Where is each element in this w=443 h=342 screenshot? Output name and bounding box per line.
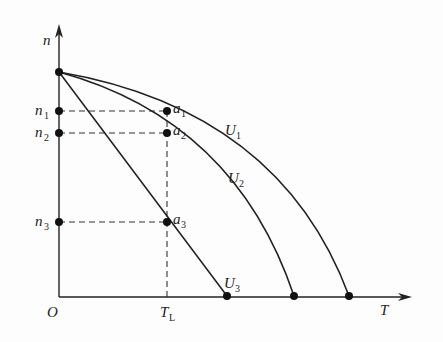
svg-text:1: 1	[236, 130, 241, 141]
n1-point	[55, 107, 63, 115]
n2-point	[55, 129, 63, 137]
svg-text:3: 3	[44, 221, 49, 232]
u2-stall-point	[290, 292, 298, 300]
a1-label: a 1	[173, 100, 186, 119]
svg-text:2: 2	[239, 178, 244, 189]
a2-label: a 2	[173, 122, 186, 141]
u1-label: U 1	[225, 122, 241, 141]
n2-label: n 2	[35, 124, 49, 143]
n-axis-label: n	[43, 32, 51, 48]
svg-text:a: a	[173, 100, 181, 116]
a1-point	[163, 107, 171, 115]
svg-text:2: 2	[181, 130, 186, 141]
n3-point	[55, 218, 63, 226]
speed-torque-diagram: n T O n 1 n 2 n 3 T L a 1 a 2 a 3 U 1 U …	[0, 0, 443, 342]
svg-text:n: n	[35, 124, 43, 140]
u1-stall-point	[345, 292, 353, 300]
svg-text:L: L	[169, 312, 175, 323]
no-load-point	[55, 68, 63, 76]
svg-text:3: 3	[181, 219, 186, 230]
n3-label: n 3	[35, 213, 49, 232]
svg-text:a: a	[173, 122, 181, 138]
svg-text:a: a	[173, 211, 181, 227]
svg-text:n: n	[35, 102, 43, 118]
origin-label: O	[47, 304, 58, 320]
n1-label: n 1	[35, 102, 49, 121]
svg-text:1: 1	[44, 110, 49, 121]
a2-point	[163, 129, 171, 137]
svg-text:2: 2	[44, 132, 49, 143]
t-axis-label: T	[380, 302, 390, 318]
a3-point	[163, 218, 171, 226]
u3-label: U 3	[224, 275, 240, 294]
u3-stall-point	[223, 292, 231, 300]
svg-text:1: 1	[181, 108, 186, 119]
curve-u1	[59, 72, 349, 296]
svg-text:n: n	[35, 213, 43, 229]
svg-text:3: 3	[235, 283, 240, 294]
tl-label: T L	[160, 304, 175, 323]
